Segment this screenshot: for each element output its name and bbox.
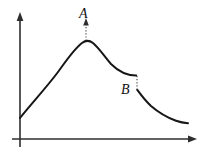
figure-canvas: A B <box>0 0 207 153</box>
vertical-axis-arrowhead-icon <box>17 12 24 21</box>
graph-drawing <box>0 0 207 153</box>
point-label-a: A <box>79 7 88 21</box>
point-label-b: B <box>121 83 130 97</box>
vertical-axis <box>17 12 24 147</box>
horizontal-axis <box>12 136 197 143</box>
dotted-leader-to-maximum <box>83 18 89 40</box>
curve-branch-rising <box>20 41 136 118</box>
horizontal-axis-arrowhead-icon <box>188 136 197 143</box>
curve-branch-after-jump <box>137 90 188 123</box>
